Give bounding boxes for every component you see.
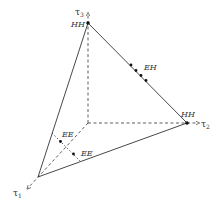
label-ee-upper: EE <box>61 130 74 139</box>
eh-point-2 <box>135 69 138 72</box>
vertex-right-point <box>185 121 189 125</box>
ee-point-1 <box>59 140 62 143</box>
axis-tau1 <box>28 123 88 188</box>
edge-top-right <box>88 23 187 123</box>
simplex-edges <box>38 23 187 177</box>
label-ee-lower: EE <box>80 149 93 158</box>
axes <box>28 14 198 188</box>
eh-point-4 <box>145 79 148 82</box>
eh-point-1 <box>130 64 133 67</box>
vertex-top-point <box>86 21 90 25</box>
edge-right-left <box>38 123 187 177</box>
axis-label-tau3: τ3 <box>75 7 84 18</box>
axis-label-tau2: τ2 <box>201 119 210 130</box>
label-hh-right: HH <box>180 110 196 119</box>
points <box>59 21 189 155</box>
label-hh-top: HH <box>70 20 86 29</box>
label-eh: EH <box>143 63 158 72</box>
eh-point-3 <box>140 74 143 77</box>
simplex-diagram: τ3 τ2 τ1 HH HH EH EE EE <box>0 0 222 207</box>
ee-point-2 <box>72 153 75 156</box>
axis-label-tau1: τ1 <box>13 188 22 199</box>
